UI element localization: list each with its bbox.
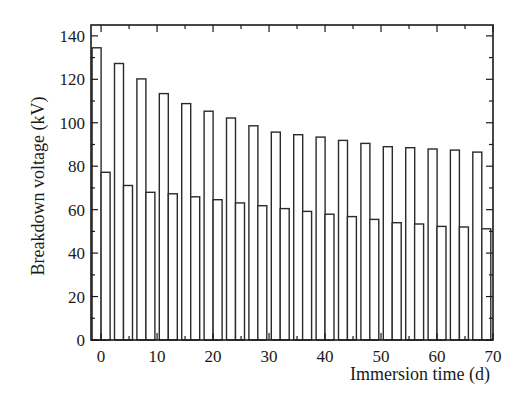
bar-series-a	[428, 149, 437, 340]
y-tick-label: 20	[68, 288, 85, 307]
bar-series-b	[213, 200, 222, 340]
bar-series-a	[406, 148, 415, 340]
bar-series-a	[271, 132, 280, 340]
bar-series-a	[450, 150, 459, 340]
bar-series-b	[392, 223, 401, 340]
bar-series-b	[124, 186, 133, 341]
bar-series-a	[294, 135, 303, 340]
bar-series-b	[415, 224, 424, 340]
y-tick-label: 80	[68, 157, 85, 176]
bar-series-b	[258, 206, 267, 340]
bar-series-a	[137, 79, 146, 340]
x-tick-label: 20	[205, 347, 222, 366]
x-tick-label: 10	[149, 347, 166, 366]
bar-series-a	[204, 111, 213, 340]
bar-series-a	[361, 143, 370, 340]
bar-series-a	[383, 147, 392, 340]
bar-series-a	[473, 152, 482, 340]
x-tick-label: 30	[261, 347, 278, 366]
x-axis-title: Immersion time (d)	[350, 364, 490, 385]
bar-series-b	[168, 194, 177, 340]
bar-series-b	[370, 219, 379, 340]
bar-series-a	[227, 118, 236, 340]
x-tick-label: 0	[97, 347, 106, 366]
y-axis-title: Breakdown voltage (kV)	[28, 97, 49, 276]
bar-chart: 010203040506070 020406080100120140 Immer…	[0, 0, 524, 399]
y-tick-label: 60	[68, 201, 85, 220]
bar-series-a	[339, 140, 348, 340]
bars-layer	[92, 48, 491, 340]
bar-series-a	[249, 126, 258, 340]
bar-series-a	[182, 104, 191, 340]
bar-series-b	[236, 203, 245, 340]
y-tick-label: 100	[60, 114, 86, 133]
y-tick-label: 140	[60, 27, 86, 46]
bar-series-b	[325, 214, 334, 340]
bar-series-a	[159, 94, 168, 340]
bar-series-a	[115, 64, 124, 341]
bar-series-a	[316, 137, 325, 340]
bar-series-b	[303, 211, 312, 340]
x-tick-label: 40	[317, 347, 334, 366]
bar-series-b	[347, 217, 356, 340]
bar-series-b	[280, 209, 289, 340]
y-tick-label: 0	[77, 331, 86, 350]
bar-series-b	[101, 172, 110, 340]
y-tick-label: 120	[60, 70, 86, 89]
bar-series-b	[146, 192, 155, 340]
y-tick-label: 40	[68, 244, 85, 263]
bar-series-b	[437, 226, 446, 340]
bar-series-b	[459, 227, 468, 340]
bar-series-b	[191, 197, 200, 340]
bar-series-b	[482, 229, 491, 340]
